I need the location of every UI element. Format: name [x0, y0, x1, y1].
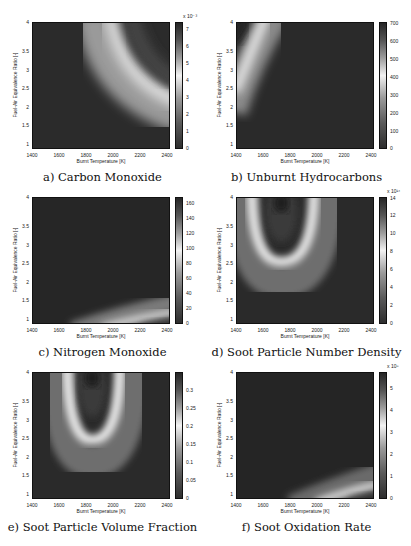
colorbar — [379, 372, 387, 499]
y-tick: 1.5 — [221, 472, 233, 478]
heatmap-no — [33, 198, 169, 323]
y-tick: 3 — [17, 67, 29, 73]
y-tick: 1 — [221, 141, 233, 147]
y-tick: 1.5 — [17, 472, 29, 478]
y-tick: 1 — [17, 141, 29, 147]
y-tick: 4 — [221, 19, 233, 25]
colorbar-tick: 20 — [186, 305, 192, 311]
y-tick: 1 — [221, 491, 233, 497]
colorbar-tick: 0 — [186, 145, 189, 151]
colorbar-tick: 2 — [186, 111, 189, 117]
y-tick: 2.5 — [17, 260, 29, 266]
panel-caption: f) Soot Oxidation Rate — [204, 520, 409, 534]
colorbar-tick: 0.3 — [186, 387, 193, 393]
heatmap-plot — [236, 372, 374, 499]
y-tick: 2 — [221, 279, 233, 285]
y-tick: 3.5 — [17, 398, 29, 404]
colorbar-tick: 160 — [186, 200, 194, 206]
panel-f: Fuel-Air Equivalence Ratio [-] 1 1.5 2 2… — [204, 350, 409, 532]
x-axis-label: Burnt Temperature [K] — [32, 508, 170, 514]
x-axis-label: Burnt Temperature [K] — [32, 333, 170, 339]
colorbar-tick: 500 — [390, 56, 398, 62]
colorbar-tick: 60 — [186, 275, 192, 281]
panel-d: Fuel-Air Equivalence Ratio [-] 1 1.5 2 2… — [204, 175, 409, 357]
colorbar-tick: 100 — [186, 245, 194, 251]
x-axis-label: Burnt Temperature [K] — [236, 158, 374, 164]
colorbar-tick: 700 — [390, 20, 398, 26]
colorbar-tick: 40 — [186, 290, 192, 296]
colorbar-exponent: x 10⁻³ — [183, 13, 197, 19]
y-tick: 3 — [221, 67, 233, 73]
x-axis-label: Burnt Temperature [K] — [236, 333, 374, 339]
colorbar-tick: 3 — [390, 429, 393, 435]
y-tick: 3.5 — [221, 48, 233, 54]
colorbar-tick: 6 — [390, 266, 393, 272]
colorbar-tick: 0.05 — [186, 477, 196, 483]
colorbar — [175, 197, 183, 324]
y-tick: 2.5 — [17, 435, 29, 441]
colorbar-tick: 2 — [390, 451, 393, 457]
colorbar-tick: 4 — [186, 77, 189, 83]
y-tick: 2 — [221, 454, 233, 460]
colorbar-tick: 5 — [390, 385, 393, 391]
colorbar-tick: 14 — [390, 195, 396, 201]
heatmap-soot-oxidation — [237, 373, 373, 498]
colorbar-tick: 1 — [186, 128, 189, 134]
colorbar-tick: 6 — [186, 43, 189, 49]
colorbar-tick: 200 — [390, 110, 398, 116]
y-tick: 3 — [221, 242, 233, 248]
y-tick: 3.5 — [17, 223, 29, 229]
panel-a: Fuel-Air Equivalence Ratio [-] 1 1.5 2 2… — [0, 0, 205, 182]
colorbar-tick: 0 — [186, 320, 189, 326]
y-tick: 1 — [17, 316, 29, 322]
y-tick: 2 — [17, 279, 29, 285]
colorbar-tick: 1 — [390, 473, 393, 479]
y-tick: 4 — [17, 369, 29, 375]
y-tick: 2.5 — [17, 85, 29, 91]
colorbar-tick: 10 — [390, 230, 396, 236]
colorbar-tick: 5 — [186, 60, 189, 66]
colorbar-tick: 0 — [186, 495, 189, 501]
y-tick: 4 — [17, 194, 29, 200]
heatmap-soot-number — [237, 198, 373, 323]
colorbar-tick: 7 — [186, 26, 189, 32]
colorbar-tick: 600 — [390, 38, 398, 44]
y-tick: 3 — [17, 417, 29, 423]
y-tick: 1 — [221, 316, 233, 322]
y-tick: 3 — [221, 417, 233, 423]
heatmap-soot-volume — [33, 373, 169, 498]
y-tick: 2.5 — [221, 260, 233, 266]
y-tick: 3.5 — [17, 48, 29, 54]
y-tick: 2.5 — [221, 435, 233, 441]
heatmap-plot — [32, 22, 170, 149]
colorbar-tick: 80 — [186, 260, 192, 266]
heatmap-plot — [32, 372, 170, 499]
x-axis-label: Burnt Temperature [K] — [32, 158, 170, 164]
colorbar-tick: 3 — [186, 94, 189, 100]
colorbar-tick: 100 — [390, 128, 398, 134]
y-tick: 2 — [17, 454, 29, 460]
colorbar-tick: 8 — [390, 248, 393, 254]
colorbar-tick: 12 — [390, 212, 396, 218]
y-tick: 2.5 — [221, 85, 233, 91]
heatmap-plot — [236, 197, 374, 324]
panel-e: Fuel-Air Equivalence Ratio [-] 1 1.5 2 2… — [0, 350, 205, 532]
colorbar-tick: 0.1 — [186, 459, 193, 465]
colorbar-tick: 120 — [186, 230, 194, 236]
colorbar-tick: 0.25 — [186, 405, 196, 411]
x-axis-label: Burnt Temperature [K] — [236, 508, 374, 514]
heatmap-plot — [32, 197, 170, 324]
panel-b: Fuel-Air Equivalence Ratio [-] 1 1.5 2 2… — [204, 0, 409, 182]
colorbar-tick: 140 — [186, 215, 194, 221]
panel-caption: e) Soot Particle Volume Fraction — [0, 520, 205, 534]
colorbar-exponent: x 10¹⁴ — [387, 188, 400, 194]
panel-c: Fuel-Air Equivalence Ratio [-] 1 1.5 2 2… — [0, 175, 205, 357]
y-tick: 1 — [17, 491, 29, 497]
colorbar-tick: 300 — [390, 92, 398, 98]
heatmap-co — [33, 23, 169, 148]
y-tick: 1.5 — [17, 297, 29, 303]
colorbar-tick: 0 — [390, 320, 393, 326]
colorbar-tick: 0.15 — [186, 441, 196, 447]
y-tick: 1.5 — [221, 297, 233, 303]
y-tick: 3 — [17, 242, 29, 248]
